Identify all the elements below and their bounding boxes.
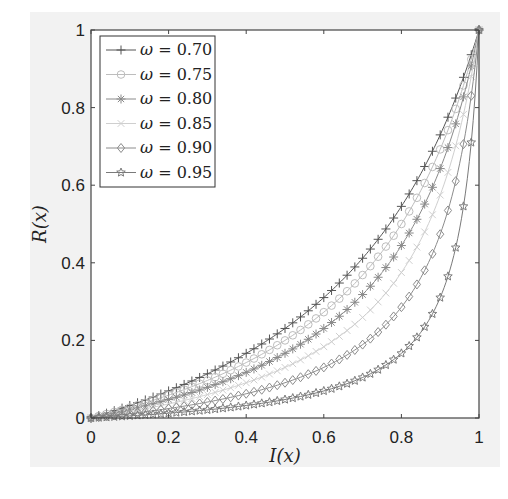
y-tick-label: 0 bbox=[76, 409, 85, 428]
x-axis-label: I(x) bbox=[268, 445, 300, 466]
x-tick-label: 0.6 bbox=[312, 428, 336, 447]
y-tick-label: 0.8 bbox=[61, 99, 85, 118]
x-tick-label: 0 bbox=[86, 428, 95, 447]
figure: 000.20.20.40.40.60.60.80.811 I(x) R(x) ω… bbox=[0, 0, 508, 499]
x-tick-label: 1 bbox=[474, 428, 483, 447]
x-tick-label: 0.4 bbox=[234, 428, 258, 447]
y-tick-label: 0.2 bbox=[61, 331, 85, 350]
line-chart: 000.20.20.40.40.60.60.80.811 I(x) R(x) ω… bbox=[0, 0, 508, 499]
legend-label: ω = 0.75 bbox=[140, 65, 212, 84]
x-tick-label: 0.2 bbox=[157, 428, 181, 447]
legend: ω = 0.70ω = 0.75ω = 0.80ω = 0.85ω = 0.90… bbox=[100, 36, 215, 187]
y-axis-label: R(x) bbox=[29, 205, 50, 244]
legend-label: ω = 0.90 bbox=[140, 138, 212, 157]
legend-label: ω = 0.70 bbox=[140, 40, 212, 59]
y-tick-label: 0.4 bbox=[61, 254, 85, 273]
x-tick-label: 0.8 bbox=[390, 428, 414, 447]
legend-label: ω = 0.85 bbox=[140, 114, 212, 133]
legend-label: ω = 0.95 bbox=[140, 163, 212, 182]
legend-label: ω = 0.80 bbox=[140, 89, 212, 108]
y-tick-label: 1 bbox=[76, 21, 85, 40]
y-tick-label: 0.6 bbox=[61, 176, 85, 195]
